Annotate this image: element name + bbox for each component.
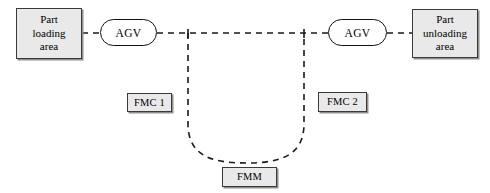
- node-fmc-2-label: FMC 2: [327, 96, 358, 108]
- node-fmm-label: FMM: [237, 171, 262, 183]
- agv-layout-diagram: Part loading area AGV AGV Part unloading…: [0, 0, 490, 193]
- node-fmc-1-label: FMC 1: [134, 97, 165, 109]
- path-fmm-loop: [188, 33, 304, 163]
- node-fmc-1[interactable]: FMC 1: [127, 93, 172, 112]
- node-agv-left-label: AGV: [115, 27, 141, 39]
- node-part-loading-area[interactable]: Part loading area: [16, 8, 82, 59]
- node-part-loading-area-label: Part loading area: [33, 13, 66, 54]
- node-part-unloading-area-label: Part unloading area: [423, 13, 467, 54]
- node-part-unloading-area[interactable]: Part unloading area: [412, 9, 478, 58]
- node-agv-right-label: AGV: [344, 27, 370, 39]
- node-fmc-2[interactable]: FMC 2: [318, 92, 367, 112]
- node-fmm[interactable]: FMM: [222, 167, 277, 187]
- node-agv-right[interactable]: AGV: [328, 19, 387, 46]
- node-agv-left[interactable]: AGV: [100, 19, 157, 46]
